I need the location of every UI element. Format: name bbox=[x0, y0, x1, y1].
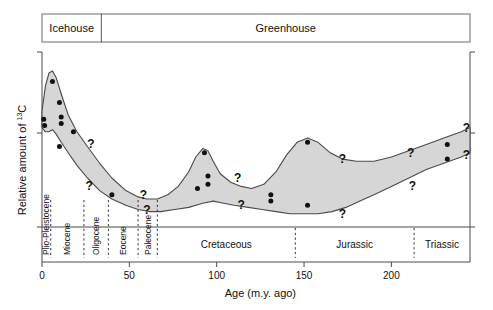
x-tick-label-4: 200 bbox=[383, 270, 400, 281]
uncertainty-marker-0: ? bbox=[87, 137, 94, 151]
climate-band-label-icehouse: Icehouse bbox=[49, 22, 94, 34]
data-point-3 bbox=[57, 100, 62, 105]
uncertainty-marker-10: ? bbox=[463, 121, 470, 135]
epoch-label-oligocene: Oligocene bbox=[91, 216, 101, 255]
period-label-jurassic: Jurassic bbox=[336, 239, 373, 250]
x-tick-label-1: 50 bbox=[124, 270, 136, 281]
uncertainty-marker-1: ? bbox=[85, 179, 92, 193]
period-label-cretaceous: Cretaceous bbox=[201, 239, 252, 250]
data-point-2 bbox=[42, 123, 47, 128]
data-point-6 bbox=[71, 129, 76, 134]
x-tick-label-2: 100 bbox=[208, 270, 225, 281]
data-point-15 bbox=[305, 140, 310, 145]
uncertainty-marker-5: ? bbox=[237, 198, 244, 212]
x-axis-title: Age (m.y. ago) bbox=[225, 287, 296, 299]
data-point-7 bbox=[57, 144, 62, 149]
data-point-18 bbox=[445, 157, 450, 162]
uncertainty-marker-4: ? bbox=[234, 171, 241, 185]
data-point-14 bbox=[268, 199, 273, 204]
c13-envelope-band bbox=[42, 71, 470, 214]
data-point-0 bbox=[50, 79, 55, 84]
epoch-label-eocene: Eocene bbox=[118, 226, 128, 255]
y-axis-title: Relative amount of 13C bbox=[16, 105, 28, 216]
x-tick-label-0: 0 bbox=[39, 270, 45, 281]
uncertainty-marker-6: ? bbox=[339, 152, 346, 166]
uncertainty-marker-7: ? bbox=[339, 207, 346, 221]
uncertainty-marker-11: ? bbox=[463, 148, 470, 162]
data-point-11 bbox=[205, 182, 210, 187]
data-point-17 bbox=[445, 142, 450, 147]
data-point-13 bbox=[268, 192, 273, 197]
uncertainty-marker-8: ? bbox=[407, 146, 414, 160]
epoch-label-paleocene: Paleocene bbox=[143, 215, 153, 255]
data-point-10 bbox=[205, 173, 210, 178]
data-point-16 bbox=[305, 203, 310, 208]
period-label-triassic: Triassic bbox=[425, 239, 459, 250]
uncertainty-marker-3: ? bbox=[143, 203, 150, 217]
c13-relative-abundance-chart: IcehouseGreenhouse????????????Plio-Pleis… bbox=[0, 0, 493, 310]
epoch-label-plio-pleistocene: Plio-Pleistocene bbox=[41, 194, 51, 255]
figure-root: IcehouseGreenhouse????????????Plio-Pleis… bbox=[0, 0, 493, 310]
uncertainty-marker-9: ? bbox=[409, 179, 416, 193]
x-tick-label-3: 150 bbox=[296, 270, 313, 281]
data-point-8 bbox=[109, 192, 114, 197]
data-point-1 bbox=[41, 117, 46, 122]
data-point-4 bbox=[59, 115, 64, 120]
uncertainty-marker-2: ? bbox=[140, 188, 147, 202]
data-point-5 bbox=[59, 121, 64, 126]
climate-band-label-greenhouse: Greenhouse bbox=[255, 22, 316, 34]
data-point-12 bbox=[195, 186, 200, 191]
epoch-label-miocene: Miocene bbox=[62, 223, 72, 255]
data-point-9 bbox=[202, 150, 207, 155]
